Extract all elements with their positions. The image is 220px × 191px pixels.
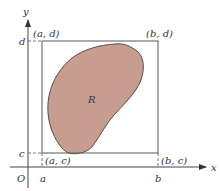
x-axis-label: x (211, 162, 217, 173)
y-axis-label: y (22, 6, 29, 17)
tick-label-a: a (40, 173, 46, 184)
region-label: R (87, 94, 96, 105)
region-diagram: y x O a b c d (a, d) (b, d) (a, c) (b, c… (0, 0, 220, 191)
region-r (48, 44, 143, 154)
tick-label-d: d (19, 36, 25, 47)
corner-label-top-left: (a, d) (33, 28, 60, 39)
origin-label: O (17, 173, 25, 184)
corner-label-bottom-left: (a, c) (45, 155, 71, 166)
tick-label-b: b (155, 173, 161, 184)
corner-label-bottom-right: (b, c) (161, 155, 187, 166)
corner-label-top-right: (b, d) (146, 28, 173, 39)
tick-label-c: c (19, 148, 25, 159)
